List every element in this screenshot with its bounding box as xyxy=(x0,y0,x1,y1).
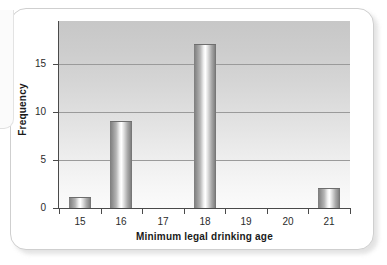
x-axis-title: Minimum legal drinking age xyxy=(59,231,350,242)
x-tick-mark-2 xyxy=(142,209,143,214)
x-tick-mark-7 xyxy=(350,209,351,214)
bar-21 xyxy=(318,188,340,208)
y-axis-line xyxy=(58,21,59,209)
y-tick-mark-10 xyxy=(53,112,58,113)
figure-root: 051015 15161718192021 Frequency Minimum … xyxy=(0,0,387,265)
x-tick-label-17: 17 xyxy=(150,216,176,227)
histogram-chart: 051015 15161718192021 Frequency Minimum … xyxy=(0,0,387,265)
x-tick-mark-0 xyxy=(59,209,60,214)
x-tick-mark-1 xyxy=(101,209,102,214)
plot-area xyxy=(59,21,350,208)
y-tick-label-5: 5 xyxy=(24,155,46,165)
x-tick-label-16: 16 xyxy=(108,216,134,227)
x-tick-label-19: 19 xyxy=(233,216,259,227)
y-tick-mark-0 xyxy=(53,208,58,209)
y-axis-title: Frequency xyxy=(17,65,28,155)
x-tick-label-18: 18 xyxy=(192,216,218,227)
x-tick-label-15: 15 xyxy=(67,216,93,227)
x-tick-mark-3 xyxy=(184,209,185,214)
x-tick-mark-6 xyxy=(308,209,309,214)
bar-15 xyxy=(69,197,91,208)
bar-18 xyxy=(194,44,216,208)
y-tick-mark-5 xyxy=(53,160,58,161)
y-tick-mark-15 xyxy=(53,64,58,65)
y-tick-label-0: 0 xyxy=(24,203,46,213)
bar-16 xyxy=(110,121,132,208)
x-tick-mark-4 xyxy=(225,209,226,214)
x-tick-label-21: 21 xyxy=(316,216,342,227)
x-tick-mark-5 xyxy=(267,209,268,214)
x-tick-label-20: 20 xyxy=(275,216,301,227)
